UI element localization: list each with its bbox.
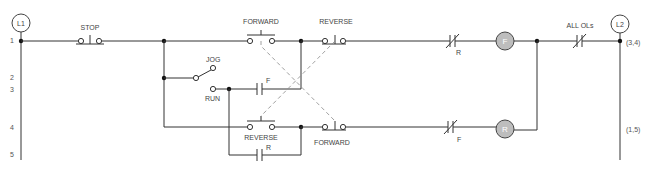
forward-pushbutton-top: FORWARD xyxy=(243,18,279,44)
stop-pushbutton: STOP xyxy=(76,24,104,44)
f-interlock-contact: F xyxy=(444,120,461,143)
f-seal-label: F xyxy=(266,77,270,84)
forward-linkage xyxy=(261,41,335,121)
jog-switch: JOG xyxy=(193,56,220,81)
right-rail: L2 (3,4) (1,5) xyxy=(611,15,640,160)
r-seal-label: R xyxy=(266,144,271,151)
r-seal-contact: R xyxy=(257,144,271,161)
forward-coil: F xyxy=(496,32,514,50)
reverse-cross-ref: (1,5) xyxy=(626,126,640,134)
svg-text:1: 1 xyxy=(10,37,14,44)
f-interlock-label: F xyxy=(457,136,461,143)
forward-bottom-label: FORWARD xyxy=(314,139,350,146)
stop-label: STOP xyxy=(81,24,100,31)
f-seal-contact: F xyxy=(257,77,270,95)
svg-text:3: 3 xyxy=(10,86,14,93)
forward-top-label: FORWARD xyxy=(243,18,279,25)
jog-label: JOG xyxy=(206,56,220,63)
l2-label: L2 xyxy=(616,21,624,28)
ladder-diagram: L1 1 2 3 4 5 STOP FORWARD R xyxy=(0,0,649,172)
reverse-coil: R xyxy=(496,120,514,138)
overload-contact: ALL OLs xyxy=(567,22,594,48)
r-interlock-label: R xyxy=(456,49,461,56)
overload-label: ALL OLs xyxy=(567,22,594,29)
svg-text:4: 4 xyxy=(10,124,14,131)
line-numbers: 1 2 3 4 5 xyxy=(10,37,14,158)
reverse-top-label: REVERSE xyxy=(319,18,353,25)
reverse-pushbutton-bottom: REVERSE xyxy=(244,116,278,141)
r-interlock-contact: R xyxy=(444,34,461,56)
svg-text:2: 2 xyxy=(10,74,14,81)
forward-cross-ref: (3,4) xyxy=(626,39,640,47)
run-label: RUN xyxy=(205,95,220,102)
svg-text:F: F xyxy=(503,37,508,46)
forward-pushbutton-bottom: FORWARD xyxy=(314,121,350,146)
svg-text:R: R xyxy=(502,125,508,134)
l1-label: L1 xyxy=(17,20,25,27)
reverse-pushbutton-top: REVERSE xyxy=(319,18,353,44)
left-rail: L1 xyxy=(12,14,30,160)
reverse-bottom-label: REVERSE xyxy=(244,134,278,141)
svg-text:5: 5 xyxy=(10,151,14,158)
reverse-linkage xyxy=(261,41,335,121)
